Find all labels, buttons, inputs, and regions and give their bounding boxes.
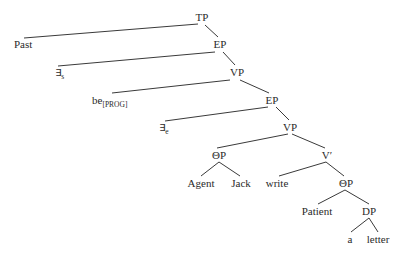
node-dp: DP	[362, 206, 376, 217]
exists-subscript-s: s	[61, 72, 64, 81]
edge-ep2-exists-e	[165, 107, 268, 121]
edge-tp-past	[24, 24, 198, 38]
node-vp-1: VP	[230, 67, 244, 78]
edge-vbar-write	[279, 162, 326, 176]
node-letter: letter	[367, 234, 390, 245]
node-be-prog: be[PROG]	[92, 95, 127, 110]
edge-tp-ep	[205, 25, 218, 37]
node-jack: Jack	[231, 178, 251, 189]
edge-theta2-patient	[318, 190, 345, 204]
edge-ep2-vp2	[276, 107, 289, 120]
node-tp: TP	[196, 12, 209, 23]
node-past: Past	[14, 39, 32, 50]
prog-subscript: [PROG]	[102, 100, 127, 109]
edge-vbar-theta2	[326, 162, 344, 176]
edge-theta2-dp	[345, 190, 369, 204]
node-exists-s: ∃s	[55, 67, 64, 82]
node-a: a	[348, 234, 353, 245]
edge-ep-exists-s	[58, 52, 215, 66]
node-vp-2: VP	[283, 122, 297, 133]
edge-vp-ep2	[240, 80, 269, 93]
node-exists-e: ∃e	[159, 122, 169, 137]
edge-theta1-jack	[219, 162, 240, 176]
node-patient: Patient	[302, 206, 333, 217]
edge-ep-vp	[223, 52, 235, 65]
edge-vp2-vbar	[292, 134, 325, 148]
node-ep-2: EP	[266, 95, 279, 106]
node-agent: Agent	[188, 178, 215, 189]
edge-dp-letter	[369, 218, 378, 232]
exists-subscript-e: e	[165, 127, 168, 136]
node-theta-p-2: ΘP	[339, 178, 353, 189]
node-v-bar: V′	[322, 150, 332, 161]
node-ep-1: EP	[214, 39, 227, 50]
edge-theta1-agent	[201, 162, 219, 176]
node-write: write	[266, 178, 289, 189]
tree-edges	[0, 0, 404, 255]
be-label: be	[92, 94, 102, 106]
edge-vp-be	[112, 80, 230, 93]
syntax-tree-diagram: TP Past EP ∃s VP be[PROG] EP ∃e VP ΘP V′…	[0, 0, 404, 255]
node-theta-p-1: ΘP	[212, 150, 226, 161]
edge-dp-a	[351, 218, 369, 232]
edge-vp2-theta1	[217, 134, 288, 148]
